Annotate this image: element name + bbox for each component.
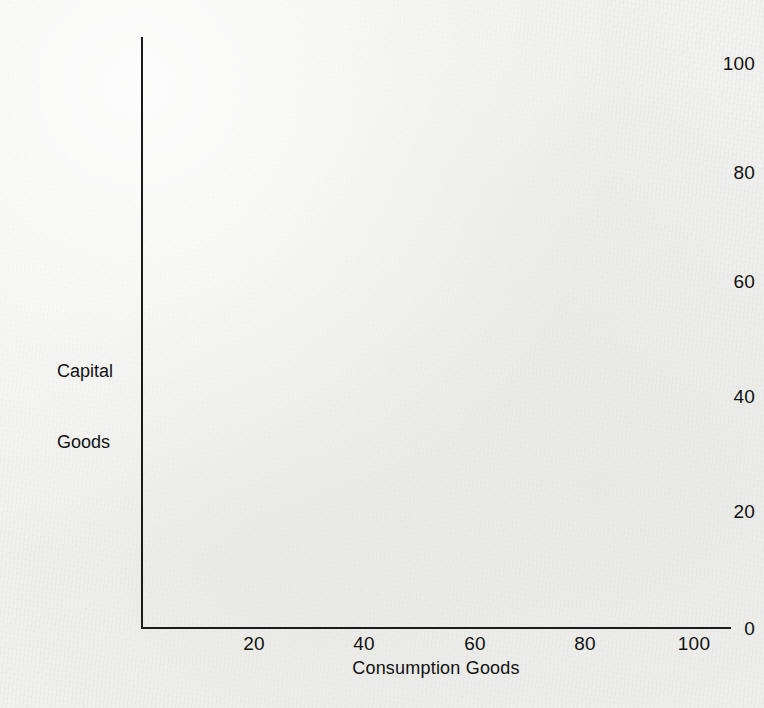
x-tick-label-20: 20 [214,634,294,653]
x-axis-title: Consumption Goods [141,658,731,679]
y-tick-label-20: 20 [638,502,764,521]
chart-figure: 100 80 60 40 20 0 20 40 60 80 100 Consum… [0,0,764,708]
x-tick-label-100: 100 [654,634,734,653]
x-tick-label-80: 80 [545,634,625,653]
y-axis-title-line-1: Capital [57,360,113,384]
y-tick-label-40: 40 [638,387,764,406]
x-tick-label-40: 40 [324,634,404,653]
x-tick-label-60: 60 [435,634,515,653]
y-axis-title-line-2: Goods [57,431,113,455]
y-tick-label-60: 60 [638,272,764,291]
plot-area [143,38,731,627]
y-tick-label-100: 100 [638,54,764,73]
y-tick-label-80: 80 [638,163,764,182]
y-axis-title: Capital Goods [57,312,113,502]
